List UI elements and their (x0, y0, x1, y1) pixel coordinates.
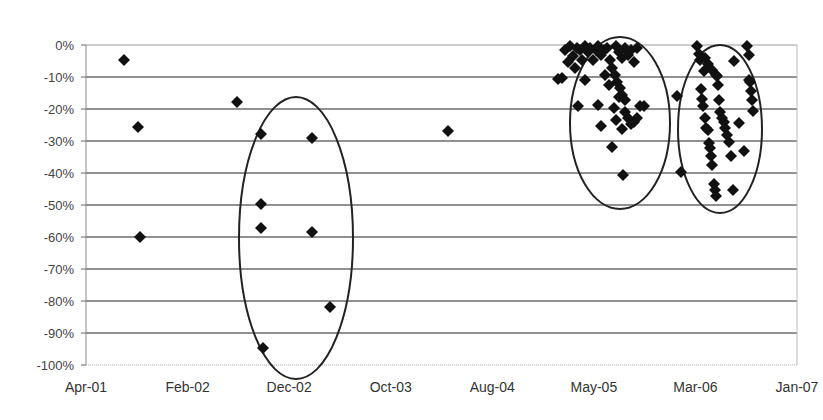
data-point-diamond (606, 141, 618, 153)
data-point-diamond (728, 55, 740, 67)
data-point-diamond (255, 222, 267, 234)
data-point-diamond (617, 169, 629, 181)
x-tick-label: Jan-07 (776, 379, 819, 395)
data-point-diamond (610, 114, 622, 126)
data-point-diamond (746, 94, 758, 106)
cluster-ellipses (239, 37, 762, 379)
data-point-diamond (741, 40, 753, 52)
x-tick-label: Feb-02 (165, 379, 210, 395)
data-point-diamond (306, 226, 318, 238)
scatter-chart: 0%-10%-20%-30%-40%-50%-60%-70%-80%-90%-1… (0, 0, 823, 420)
y-tick-label: -50% (44, 198, 75, 213)
data-point-diamond (608, 102, 620, 114)
x-tick-label: Apr-01 (65, 379, 107, 395)
data-point-diamond (706, 159, 718, 171)
data-point-diamond (572, 100, 584, 112)
y-tick-label: -80% (44, 294, 75, 309)
data-point-diamond (695, 83, 707, 95)
data-point-diamond (324, 301, 336, 313)
y-tick-label: -90% (44, 326, 75, 341)
data-point-diamond (306, 132, 318, 144)
y-tick-label: -30% (44, 134, 75, 149)
y-tick-label: -70% (44, 262, 75, 277)
x-tick-label: Aug-04 (470, 379, 515, 395)
y-tick-label: -60% (44, 230, 75, 245)
data-point-diamond (231, 96, 243, 108)
data-point-diamond (255, 198, 267, 210)
y-tick-label: -20% (44, 102, 75, 117)
y-tick-label: -40% (44, 166, 75, 181)
x-tick-label: Dec-02 (267, 379, 312, 395)
data-point-diamond (697, 100, 709, 112)
cluster-ellipse (239, 97, 353, 379)
data-point-diamond (713, 94, 725, 106)
data-point-diamond (727, 184, 739, 196)
x-tick-label: Oct-03 (370, 379, 412, 395)
data-point-diamond (442, 125, 454, 137)
y-axis: 0%-10%-20%-30%-40%-50%-60%-70%-80%-90%-1… (36, 38, 86, 373)
data-point-diamond (132, 121, 144, 133)
data-point-diamond (579, 74, 591, 86)
y-tick-label: 0% (55, 38, 74, 53)
data-point-diamond (699, 112, 711, 124)
y-tick-label: -100% (36, 358, 74, 373)
data-points (118, 40, 759, 354)
data-point-diamond (134, 231, 146, 243)
data-point-diamond (712, 79, 724, 91)
data-point-diamond (725, 150, 737, 162)
data-point-diamond (747, 105, 759, 117)
data-point-diamond (118, 54, 130, 66)
data-point-diamond (733, 117, 745, 129)
data-point-diamond (738, 145, 750, 157)
y-tick-label: -10% (44, 70, 75, 85)
x-tick-label: May-05 (571, 379, 618, 395)
x-tick-label: Mar-06 (673, 379, 718, 395)
data-point-diamond (743, 49, 755, 61)
data-point-diamond (595, 120, 607, 132)
